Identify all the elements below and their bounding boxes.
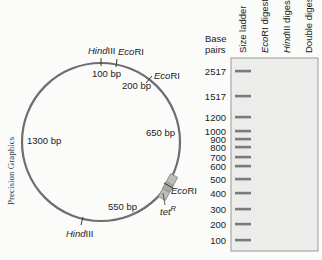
ladder-band	[235, 70, 251, 73]
site-label-ecori-upper-right: EcoRI	[154, 70, 180, 81]
ladder-band	[235, 156, 251, 159]
gel-axis-title-line1: Base	[205, 33, 227, 44]
ladder-label: 1517	[205, 91, 226, 102]
ladder-label: 200	[210, 219, 226, 230]
site-label-ecori-lower-right: EcoRI	[171, 185, 197, 196]
ladder-band	[235, 208, 251, 211]
ladder-band	[235, 239, 251, 242]
segment-label-200bp: 200 bp	[122, 80, 151, 91]
ladder-label: 300	[210, 204, 226, 215]
site-label-hindiii-top: HindIII	[88, 45, 115, 56]
ladder-label: 500	[210, 174, 226, 185]
gene-label-tetR: tetR	[160, 204, 177, 217]
ecori-top-tick	[116, 59, 117, 67]
gel-axis-title-line2: pairs	[205, 44, 226, 55]
ladder-band	[235, 95, 251, 98]
segment-label-1300bp: 1300 bp	[27, 135, 61, 146]
ladder-label: 400	[210, 188, 226, 199]
ladder-label: 600	[210, 161, 226, 172]
lane-label-ecori-digest: EcoRI digest	[259, 0, 270, 53]
ladder-band	[235, 192, 251, 195]
ladder-label: 100	[210, 235, 226, 246]
lane-label-double-digest: Double digest	[303, 0, 314, 53]
ladder-band	[235, 138, 251, 141]
ladder-band	[235, 130, 251, 133]
ladder-band	[235, 178, 251, 181]
lane-label-size-ladder: Size ladder	[237, 5, 248, 53]
segment-label-100bp: 100 bp	[92, 68, 121, 79]
credit-text: Precision Graphics	[6, 136, 16, 205]
plasmid-gel-figure: Precision Graphics HindIII EcoRI EcoRI E…	[0, 0, 322, 260]
site-label-ecori-top: EcoRI	[118, 46, 144, 57]
ladder-band	[235, 116, 251, 119]
lane-label-hindiii-digest: HindIII digest	[281, 0, 292, 53]
segment-label-650bp: 650 bp	[146, 127, 175, 138]
gel-box	[231, 58, 318, 251]
ladder-band	[235, 165, 251, 168]
site-label-hindiii-bottom: HindIII	[66, 228, 93, 239]
segment-label-550bp: 550 bp	[108, 201, 137, 212]
ladder-band	[235, 146, 251, 149]
ladder-label: 1200	[205, 112, 226, 123]
ladder-label: 2517	[205, 66, 226, 77]
ladder-band	[235, 223, 251, 226]
